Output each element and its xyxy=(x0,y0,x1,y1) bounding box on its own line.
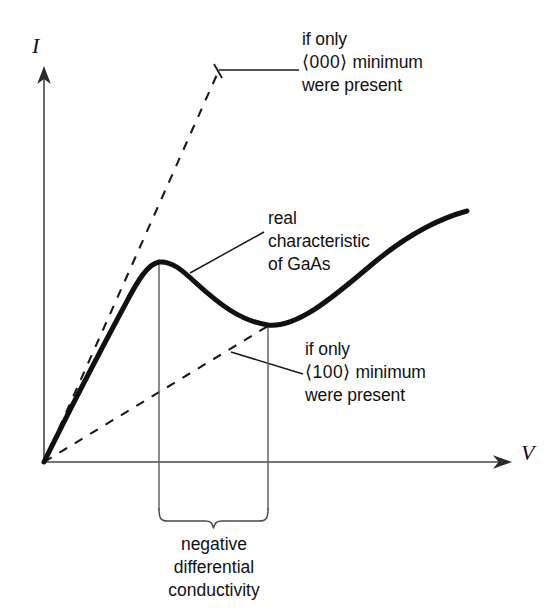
annotation-000-line1: if only xyxy=(302,28,423,51)
annotation-100-line1: if only xyxy=(305,338,426,361)
annotation-100-minimum: if only ⟨100⟩ minimum were present xyxy=(305,338,426,407)
annotation-real-characteristic: real characteristic of GaAs xyxy=(268,207,370,276)
annotation-100-line2: ⟨100⟩ minimum xyxy=(305,361,426,384)
annotation-real-line2: characteristic xyxy=(268,230,370,253)
leader-line-lower xyxy=(231,352,303,374)
dashed-line-000 xyxy=(44,64,222,462)
annotation-real-line1: real xyxy=(268,207,370,230)
annotation-100-line3: were present xyxy=(305,384,426,407)
voltage-axis xyxy=(44,455,512,469)
brace-caption-line2: differential xyxy=(133,556,295,579)
annotation-000-line3: were present xyxy=(302,74,423,97)
x-axis-label: V xyxy=(521,440,534,466)
annotation-000-line2: ⟨000⟩ minimum xyxy=(302,51,423,74)
brace-caption-line1: negative xyxy=(133,533,295,556)
annotation-000-index: ⟨000⟩ xyxy=(302,52,348,72)
leader-line-middle xyxy=(190,232,264,273)
current-axis xyxy=(37,66,51,462)
annotation-100-index: ⟨100⟩ xyxy=(305,362,351,382)
gaas-iv-characteristic-figure: I V if only ⟨000⟩ minimum were present r… xyxy=(0,0,558,610)
annotation-real-line3: of GaAs xyxy=(268,253,370,276)
y-axis-label: I xyxy=(32,33,39,59)
brace-caption-line3: conductivity xyxy=(133,579,295,602)
brace-caption: negative differential conductivity xyxy=(133,533,295,602)
brace-negative-differential-conductivity xyxy=(159,509,268,528)
annotation-100-minimum-word: minimum xyxy=(351,362,426,382)
annotation-000-minimum: if only ⟨000⟩ minimum were present xyxy=(302,28,423,97)
annotation-000-minimum-word: minimum xyxy=(348,52,423,72)
